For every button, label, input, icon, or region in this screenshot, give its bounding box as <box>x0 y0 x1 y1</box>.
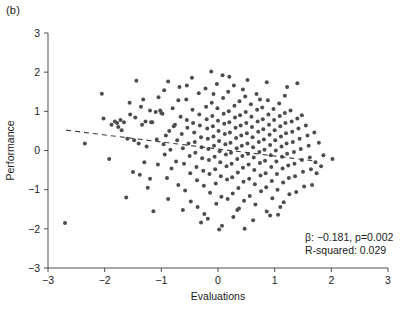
data-point <box>128 101 132 105</box>
data-point <box>261 117 265 121</box>
data-point <box>148 177 152 181</box>
data-point <box>109 123 113 127</box>
data-point <box>188 171 192 175</box>
data-point <box>258 161 262 165</box>
data-point <box>239 123 243 127</box>
data-point <box>122 120 126 124</box>
data-point <box>283 121 287 125</box>
data-point <box>196 205 200 209</box>
data-point <box>230 162 234 166</box>
data-point <box>227 75 231 79</box>
data-point <box>286 163 290 167</box>
data-point <box>293 174 297 178</box>
x-tick-label: 2 <box>328 274 334 286</box>
data-point <box>231 215 235 219</box>
data-point <box>171 106 175 110</box>
data-point <box>289 109 293 113</box>
data-point <box>258 98 262 102</box>
data-point <box>227 120 231 124</box>
data-point <box>251 135 255 139</box>
data-point <box>204 87 208 91</box>
x-tick-label: −3 <box>42 274 54 286</box>
data-point <box>232 104 236 108</box>
data-point <box>235 157 239 161</box>
data-point <box>281 181 285 185</box>
data-point <box>235 208 239 212</box>
data-point <box>191 108 195 112</box>
data-point <box>291 140 295 144</box>
data-point <box>199 221 203 225</box>
data-point <box>275 172 279 176</box>
data-point <box>116 125 120 129</box>
data-point <box>194 165 198 169</box>
data-point <box>140 123 144 127</box>
data-point <box>245 131 249 135</box>
data-point <box>151 209 155 213</box>
data-point <box>250 125 254 129</box>
scatter-plot: −3−2−10123−3−2−10123EvaluationsPerforman… <box>0 0 401 311</box>
data-point <box>259 189 263 193</box>
data-point <box>183 188 187 192</box>
data-point <box>206 217 210 221</box>
data-point <box>268 133 272 137</box>
data-point <box>234 136 238 140</box>
data-point <box>310 183 314 187</box>
data-point <box>211 92 215 96</box>
data-point <box>330 157 334 161</box>
data-point <box>231 192 235 196</box>
data-point <box>115 121 119 125</box>
data-point <box>179 115 183 119</box>
stats-annotation: β: −0.181, p=0.002R-squared: 0.029 <box>305 231 394 256</box>
data-point <box>188 154 192 158</box>
data-point <box>184 98 188 102</box>
data-point <box>189 199 193 203</box>
data-point <box>210 114 214 118</box>
data-point <box>238 113 242 117</box>
data-point <box>173 123 177 127</box>
data-point <box>175 138 179 142</box>
data-point <box>139 105 143 109</box>
data-point <box>262 148 266 152</box>
data-point <box>306 134 310 138</box>
data-point <box>315 171 319 175</box>
data-point <box>200 156 204 160</box>
data-point <box>215 82 219 86</box>
data-point <box>208 191 212 195</box>
data-point <box>257 140 261 144</box>
data-point <box>259 174 263 178</box>
data-point <box>227 109 231 113</box>
data-point <box>247 177 251 181</box>
data-point <box>100 92 104 96</box>
data-point <box>214 202 218 206</box>
data-point <box>219 195 223 199</box>
data-point <box>232 83 236 87</box>
data-point <box>319 164 323 168</box>
data-point <box>285 141 289 145</box>
data-point <box>272 107 276 111</box>
data-point <box>264 185 268 189</box>
data-point <box>273 128 277 132</box>
data-point <box>174 159 178 163</box>
data-point <box>137 141 141 145</box>
data-point <box>321 153 325 157</box>
data-point <box>298 137 302 141</box>
data-point <box>233 116 237 120</box>
data-point <box>226 197 230 201</box>
data-point <box>225 164 229 168</box>
y-tick-label: 1 <box>34 105 40 117</box>
data-point <box>157 95 161 99</box>
data-point <box>265 210 269 214</box>
data-point <box>295 116 299 120</box>
data-point <box>197 112 201 116</box>
y-axis-title: Performance <box>4 120 16 180</box>
x-tick-label: 0 <box>215 274 221 286</box>
data-point <box>143 120 147 124</box>
data-point <box>229 151 233 155</box>
data-point <box>247 163 251 167</box>
data-point <box>222 122 226 126</box>
data-point <box>210 101 214 105</box>
data-point <box>197 91 201 95</box>
data-point <box>302 185 306 189</box>
data-point <box>223 142 227 146</box>
data-point <box>192 130 196 134</box>
